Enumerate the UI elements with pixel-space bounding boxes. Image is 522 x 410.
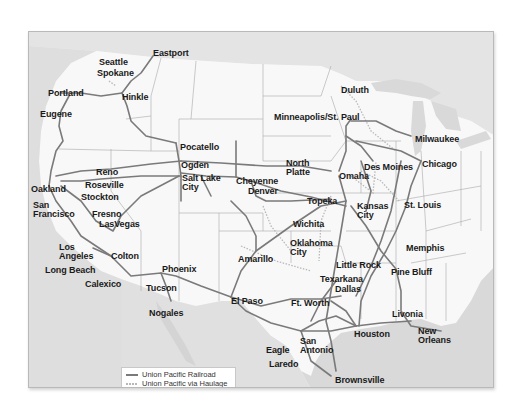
- city-label-calexico: Calexico: [85, 280, 121, 289]
- city-label-omaha: Omaha: [339, 172, 369, 181]
- city-label-cheyenne: Cheyenne: [236, 177, 278, 186]
- city-label-amarillo: Amarillo: [238, 255, 273, 264]
- dotted-line-swatch-icon: [126, 383, 138, 385]
- city-label-portland: Portland: [48, 89, 84, 98]
- legend-label: Union Pacific via Haulage: [142, 380, 227, 388]
- city-label-san-francisco: San Francisco: [33, 201, 75, 219]
- city-label-laredo: Laredo: [269, 360, 298, 369]
- city-label-kansas-city: Kansas City: [357, 202, 388, 220]
- city-label-oakland: Oakland: [31, 185, 66, 194]
- city-label-ogden: Ogden: [181, 161, 209, 170]
- city-label-wichita: Wichita: [293, 220, 324, 229]
- city-label-brownsville: Brownsville: [335, 376, 384, 385]
- city-label-reno: Reno: [96, 168, 118, 177]
- city-label-livonia: Livonia: [392, 310, 423, 319]
- city-label-milwaukee: Milwaukee: [415, 135, 459, 144]
- legend-label: Union Pacific Railroad: [142, 371, 216, 379]
- city-label-long-beach: Long Beach: [45, 266, 96, 275]
- city-label-st-louis: St. Louis: [404, 201, 441, 210]
- city-label-seattle: Seattle: [99, 58, 128, 67]
- city-label-eagle: Eagle: [266, 346, 290, 355]
- city-label-fresno: Fresno: [92, 210, 121, 219]
- city-label-san-antonio: San Antonio: [300, 337, 333, 355]
- city-label-el-paso: El Paso: [231, 297, 263, 306]
- city-label-minneapolis-st-paul: Minneapolis/St. Paul: [274, 113, 360, 122]
- city-label-lasvegas: LasVegas: [99, 220, 140, 229]
- city-label-phoenix: Phoenix: [162, 265, 196, 274]
- city-label-eastport: Eastport: [153, 49, 189, 58]
- city-label-chicago: Chicago: [422, 160, 457, 169]
- city-label-des-moines: Des Moines: [364, 163, 413, 172]
- legend: Union Pacific Railroad Union Pacific via…: [121, 367, 236, 388]
- city-label-houston: Houston: [354, 330, 390, 339]
- solid-line-swatch-icon: [126, 374, 138, 376]
- city-label-eugene: Eugene: [40, 110, 72, 119]
- city-label-roseville: Roseville: [85, 181, 124, 190]
- map-frame: EastportSeattleSpokanePortlandHinkleEuge…: [28, 31, 494, 388]
- city-label-dallas: Dallas: [335, 285, 361, 294]
- city-label-memphis: Memphis: [406, 244, 444, 253]
- city-label-colton: Colton: [111, 252, 139, 261]
- city-label-hinkle: Hinkle: [122, 93, 148, 102]
- city-label-pocatello: Pocatello: [180, 143, 219, 152]
- city-label-texarkana: Texarkana: [320, 275, 363, 284]
- city-label-spokane: Spokane: [97, 69, 134, 78]
- city-label-oklahoma-city: Oklahoma City: [290, 239, 333, 257]
- city-label-topeka: Topeka: [307, 197, 337, 206]
- city-label-north-platte: North Platte: [286, 159, 310, 177]
- city-label-stockton: Stockton: [81, 193, 119, 202]
- city-label-denver: Denver: [248, 187, 278, 196]
- city-label-duluth: Duluth: [341, 86, 369, 95]
- city-label-tucson: Tucson: [146, 284, 177, 293]
- city-label-pine-bluff: Pine Bluff: [391, 268, 432, 277]
- city-label-new-orleans: New Orleans: [418, 327, 451, 345]
- city-label-salt-lake-city: Salt Lake City: [182, 174, 221, 192]
- city-label-los-angeles: Los Angeles: [59, 243, 93, 261]
- city-label-ft-worth: Ft. Worth: [291, 299, 329, 308]
- city-label-nogales: Nogales: [149, 309, 183, 318]
- city-label-little-rock: Little Rock: [336, 261, 381, 270]
